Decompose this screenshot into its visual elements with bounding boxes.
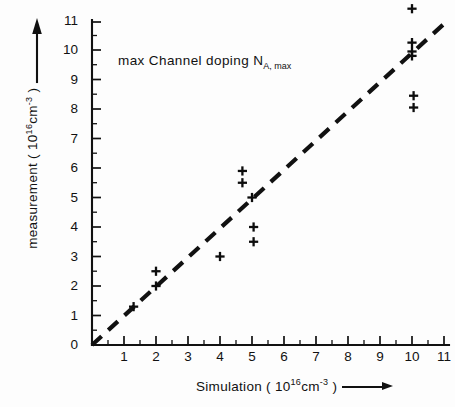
x-axis-title-close: ) xyxy=(328,379,337,394)
data-point xyxy=(238,166,247,175)
y-axis-title-exponent2: -3 xyxy=(24,97,34,106)
data-point xyxy=(407,51,416,60)
y-tick-label: 5 xyxy=(54,190,78,205)
y-axis-ticks xyxy=(92,22,101,345)
y-tick-label: 0 xyxy=(54,337,78,352)
x-tick-label: 4 xyxy=(208,349,232,364)
x-tick-label: 11 xyxy=(432,349,455,364)
data-point xyxy=(407,38,416,47)
y-axis-title-exponent: 16 xyxy=(24,124,34,135)
x-tick-label: 6 xyxy=(272,349,296,364)
y-axis-title-unit: cm xyxy=(25,105,40,124)
x-tick-label: 5 xyxy=(240,349,264,364)
y-tick-label: 11 xyxy=(54,13,78,28)
x-axis-title-main: Simulation ( 10 xyxy=(196,379,291,394)
x-tick-label: 2 xyxy=(144,349,168,364)
y-tick-label: 9 xyxy=(54,72,78,87)
y-tick-label: 6 xyxy=(54,160,78,175)
data-point xyxy=(215,252,224,261)
annotation-subscript: A, max xyxy=(263,61,291,71)
annotation-main: max Channel doping N xyxy=(118,53,263,68)
data-point xyxy=(409,91,418,100)
y-tick-label: 8 xyxy=(54,101,78,116)
data-point xyxy=(249,222,258,231)
plot-annotation: max Channel doping NA, max xyxy=(118,53,291,71)
x-axis-title: Simulation ( 1016cm-3 ) xyxy=(196,377,396,394)
y-tick-label: 3 xyxy=(54,249,78,264)
data-point xyxy=(409,103,418,112)
y-axis-title-close: ) xyxy=(25,88,40,97)
data-point xyxy=(238,178,247,187)
x-axis-title-exponent: 16 xyxy=(291,377,302,387)
x-tick-label: 8 xyxy=(336,349,360,364)
y-tick-label: 7 xyxy=(54,131,78,146)
x-tick-label: 9 xyxy=(368,349,392,364)
y-tick-label: 10 xyxy=(54,42,78,57)
x-tick-label: 3 xyxy=(176,349,200,364)
y-axis-title-main: measurement ( 10 xyxy=(25,134,40,248)
data-point xyxy=(407,4,416,13)
x-tick-label: 10 xyxy=(400,349,424,364)
data-point-group xyxy=(129,4,418,311)
y-axis-title: measurement ( 1016cm-3 ) xyxy=(24,73,41,263)
x-tick-label: 1 xyxy=(112,349,136,364)
x-axis-title-unit: cm xyxy=(301,379,320,394)
y-tick-label: 1 xyxy=(54,308,78,323)
data-point xyxy=(151,267,160,276)
data-point xyxy=(249,237,258,246)
y-tick-label: 2 xyxy=(54,278,78,293)
figure-container: max Channel doping NA, max Simulation ( … xyxy=(0,0,455,407)
y-tick-label: 4 xyxy=(54,219,78,234)
x-tick-label: 7 xyxy=(304,349,328,364)
x-axis-direction-arrow xyxy=(342,382,396,391)
